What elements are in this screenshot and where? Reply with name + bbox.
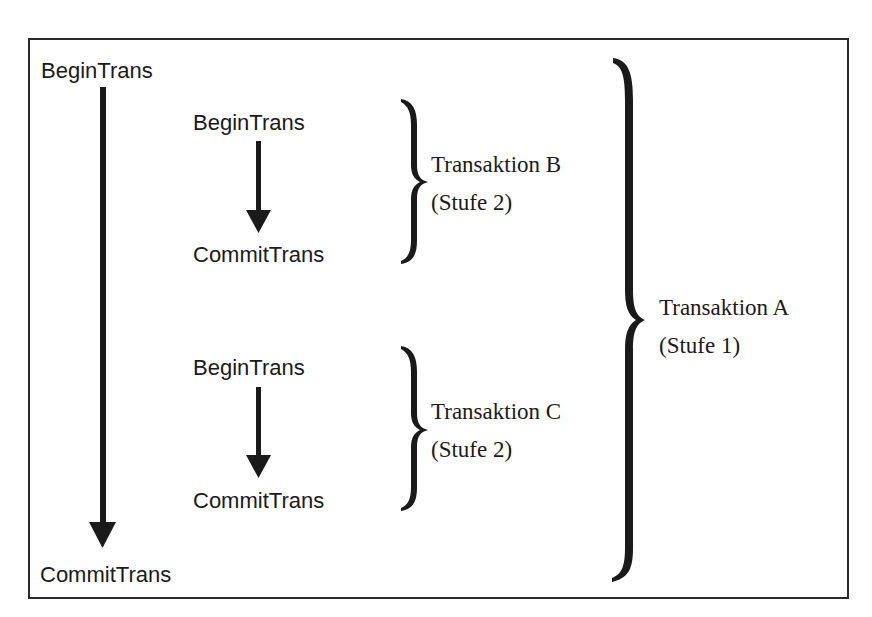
- outer-begin-label: BeginTrans: [41, 58, 153, 83]
- brace-c-label-line2: (Stufe 2): [431, 437, 512, 462]
- brace-a-label-line1: Transaktion A: [659, 295, 790, 320]
- arrow-head-icon: [246, 455, 271, 478]
- brace-c-label-line1: Transaktion C: [431, 399, 561, 424]
- inner-transaction-c: BeginTrans CommitTrans Transaktion C (St…: [193, 346, 561, 513]
- inner-b-commit-label: CommitTrans: [193, 242, 324, 267]
- inner-transaction-b: BeginTrans CommitTrans Transaktion B (St…: [193, 99, 561, 267]
- nested-transaction-diagram: BeginTrans CommitTrans Transaktion A (St…: [0, 0, 872, 617]
- inner-c-commit-label: CommitTrans: [193, 488, 324, 513]
- inner-c-begin-label: BeginTrans: [193, 355, 305, 380]
- brace-c-icon: [401, 346, 428, 511]
- arrow-head-icon: [246, 210, 271, 233]
- arrow-head-icon: [89, 522, 116, 548]
- inner-c-arrow: [246, 387, 271, 478]
- brace-b-icon: [401, 99, 428, 264]
- brace-b-label-line1: Transaktion B: [431, 152, 561, 177]
- inner-b-arrow: [246, 141, 271, 233]
- inner-b-begin-label: BeginTrans: [193, 110, 305, 135]
- brace-a-label-line2: (Stufe 1): [659, 333, 740, 358]
- brace-b-label-line2: (Stufe 2): [431, 190, 512, 215]
- outer-commit-label: CommitTrans: [40, 562, 171, 587]
- outer-arrow: [89, 87, 116, 548]
- brace-a-icon: [612, 58, 645, 582]
